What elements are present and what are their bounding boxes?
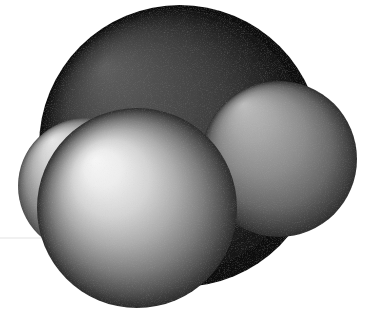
molecule-canvas <box>0 0 377 317</box>
molecular-model-figure: Space-filling (CPK) molecular model <box>0 0 377 317</box>
atom-front-light-atom <box>37 108 237 308</box>
